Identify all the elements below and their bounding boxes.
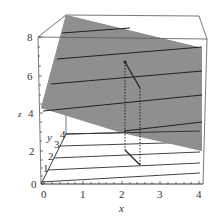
z-tick-labels: 8 6 4 2 0: [27, 31, 37, 190]
y-axis-label: y: [46, 131, 52, 143]
x-tick-labels: 0 1 2 3 4: [41, 188, 202, 200]
plot-3d: 0 1 2 3 4 x 8 6 4 2 0 z 1 2 3 4 y: [0, 0, 220, 222]
x-axis-label: x: [118, 202, 124, 214]
y-tick-1: 1: [43, 162, 49, 174]
x-tick-0: 0: [41, 188, 47, 200]
z-tick-2: 2: [29, 145, 35, 157]
x-tick-3: 3: [157, 188, 163, 200]
z-tick-6: 6: [27, 70, 33, 82]
y-tick-2: 2: [48, 150, 54, 162]
z-tick-0: 0: [31, 178, 37, 190]
z-tick-8: 8: [27, 31, 33, 43]
z-tick-4: 4: [28, 107, 34, 119]
z-axis-label: z: [17, 109, 22, 119]
x-tick-4: 4: [196, 188, 202, 200]
x-tick-2: 2: [119, 188, 125, 200]
x-tick-1: 1: [80, 188, 86, 200]
y-tick-4: 4: [60, 128, 66, 140]
